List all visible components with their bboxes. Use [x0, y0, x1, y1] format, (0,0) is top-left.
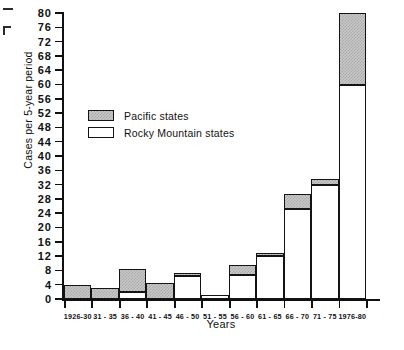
bar-segment-pacific[interactable] [229, 265, 256, 275]
x-axis-tick [91, 301, 93, 308]
y-axis-tick-label: 16 [38, 236, 52, 248]
y-axis-tick-label: 8 [45, 264, 52, 276]
y-axis-tick-label: 52 [38, 107, 52, 119]
bar-stack[interactable] [64, 285, 91, 299]
bar-segment-rocky-mountain[interactable] [284, 209, 311, 299]
y-axis-tick-label: 76 [38, 21, 52, 33]
y-axis-tick-label: 36 [38, 164, 52, 176]
bar-segment-rocky-mountain[interactable] [229, 275, 256, 299]
y-axis-tick-label: 56 [38, 93, 52, 105]
x-axis-tick [119, 301, 121, 308]
legend-label: Rocky Mountain states [124, 127, 234, 139]
bar-segment-pacific[interactable] [339, 13, 366, 85]
bar-segment-rocky-mountain[interactable] [256, 256, 283, 299]
y-axis-tick: 28 [55, 198, 62, 200]
y-axis-tick-label: 80 [38, 7, 52, 19]
x-axis-tick [339, 301, 341, 308]
bar-segment-rocky-mountain[interactable] [174, 276, 201, 299]
x-axis-tick [284, 301, 286, 308]
y-axis-tick-label: 12 [38, 250, 52, 262]
x-axis-tick [229, 301, 231, 308]
legend-label: Pacific states [124, 110, 189, 122]
y-axis-tick: 4 [55, 284, 62, 286]
bar-segment-rocky-mountain[interactable] [119, 292, 146, 299]
y-axis-tick: 64 [55, 69, 62, 71]
y-axis-tick: 36 [55, 170, 62, 172]
y-axis-tick-label: 72 [38, 35, 52, 47]
y-axis-tick-label: 20 [38, 221, 52, 233]
y-axis-tick: 16 [55, 241, 62, 243]
x-axis-tick [201, 301, 203, 308]
bar-stack[interactable] [91, 288, 118, 299]
y-axis-tick: 40 [55, 155, 62, 157]
bar-segment-pacific[interactable] [311, 179, 338, 184]
bar-stack[interactable] [201, 295, 228, 299]
y-axis-tick: 60 [55, 84, 62, 86]
plot-area: 048121620242832364044485256606468727680 … [62, 12, 380, 301]
y-axis-tick: 52 [55, 112, 62, 114]
scan-artifact-mark [3, 8, 13, 10]
chart-legend: Pacific statesRocky Mountain states [88, 107, 234, 141]
legend-item[interactable]: Pacific states [88, 107, 234, 124]
x-axis-tick [64, 301, 66, 308]
y-axis-tick: 20 [55, 227, 62, 229]
bar-stack[interactable] [174, 273, 201, 299]
legend-swatch-rocky [88, 127, 114, 138]
x-axis-title: Years [62, 318, 380, 330]
y-axis-tick-label: 60 [38, 78, 52, 90]
legend-swatch-pacific [88, 110, 114, 121]
y-axis-tick-label: 4 [45, 278, 52, 290]
y-axis-tick-label: 48 [38, 121, 52, 133]
y-axis-tick-label: 68 [38, 50, 52, 62]
y-axis-tick-label: 40 [38, 150, 52, 162]
x-axis-tick [366, 301, 368, 308]
y-axis-tick: 12 [55, 255, 62, 257]
y-axis-tick: 80 [55, 12, 62, 14]
y-axis-tick: 24 [55, 212, 62, 214]
y-axis-tick-label: 28 [38, 193, 52, 205]
bar-segment-pacific[interactable] [146, 283, 173, 299]
bar-stack[interactable] [284, 194, 311, 299]
bar-segment-pacific[interactable] [174, 273, 201, 276]
bar-segment-pacific[interactable] [64, 285, 91, 299]
bar-segment-rocky-mountain[interactable] [339, 85, 366, 300]
bar-segment-pacific[interactable] [119, 269, 146, 292]
y-axis-tick: 68 [55, 55, 62, 57]
bar-segment-pacific[interactable] [256, 253, 283, 257]
y-axis-tick: 44 [55, 141, 62, 143]
bar-segment-pacific[interactable] [284, 194, 311, 208]
legend-item[interactable]: Rocky Mountain states [88, 124, 234, 141]
x-axis-tick [174, 301, 176, 308]
scan-artifact-mark [3, 26, 5, 35]
x-axis-tick [256, 301, 258, 308]
bar-group [62, 12, 380, 301]
y-axis-title: Cases per 5-year period [22, 20, 34, 200]
y-axis-tick: 72 [55, 41, 62, 43]
y-axis-tick-label: 24 [38, 207, 52, 219]
y-axis-tick-label: 32 [38, 178, 52, 190]
y-axis-tick: 8 [55, 270, 62, 272]
y-axis-tick: 48 [55, 127, 62, 129]
y-axis-tick-label: 44 [38, 135, 52, 147]
y-axis-tick: 76 [55, 27, 62, 29]
y-axis-tick: 0 [55, 298, 62, 300]
y-axis-tick: 32 [55, 184, 62, 186]
bar-stack[interactable] [339, 13, 366, 299]
bar-segment-rocky-mountain[interactable] [201, 295, 228, 299]
bar-segment-pacific[interactable] [91, 288, 118, 299]
bar-stack[interactable] [229, 265, 256, 299]
x-axis-tick [311, 301, 313, 308]
bar-stack[interactable] [119, 269, 146, 299]
bar-stack[interactable] [311, 179, 338, 299]
y-axis-tick-label: 64 [38, 64, 52, 76]
y-axis-tick-label: 0 [45, 293, 52, 305]
bar-stack[interactable] [146, 283, 173, 299]
y-axis-tick: 56 [55, 98, 62, 100]
x-axis-tick [146, 301, 148, 308]
figure-container: Cases per 5-year period 0481216202428323… [0, 0, 404, 350]
bar-stack[interactable] [256, 253, 283, 299]
bar-segment-rocky-mountain[interactable] [311, 185, 338, 299]
